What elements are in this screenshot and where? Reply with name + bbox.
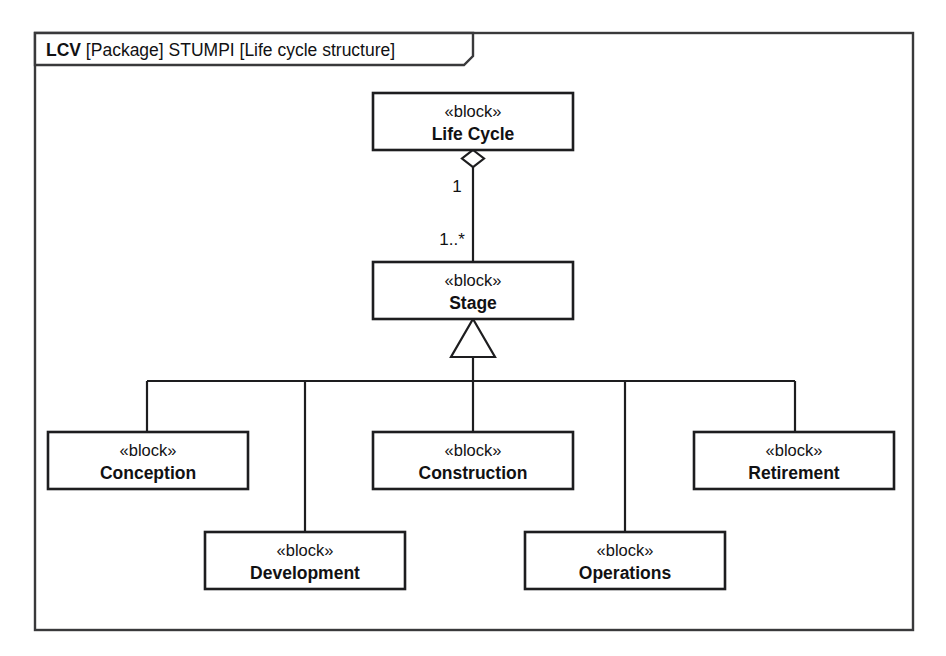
block-stage-name: Stage xyxy=(449,293,497,313)
block-stage-stereotype: «block» xyxy=(445,271,502,289)
block-operations[interactable]: «block» Operations xyxy=(525,532,725,589)
diagram-canvas: LCV [Package] STUMPI [Life cycle structu… xyxy=(0,0,946,656)
block-conception-name: Conception xyxy=(100,463,196,483)
block-life-cycle-stereotype: «block» xyxy=(445,102,502,120)
block-retirement-stereotype: «block» xyxy=(766,441,823,459)
block-retirement[interactable]: «block» Retirement xyxy=(694,432,894,489)
block-retirement-name: Retirement xyxy=(748,463,840,483)
block-construction-stereotype: «block» xyxy=(445,441,502,459)
block-life-cycle-name: Life Cycle xyxy=(432,124,515,144)
diagram-header-label: LCV [Package] STUMPI [Life cycle structu… xyxy=(46,40,395,60)
block-construction[interactable]: «block» Construction xyxy=(373,432,573,489)
block-conception-stereotype: «block» xyxy=(120,441,177,459)
block-development-stereotype: «block» xyxy=(277,541,334,559)
block-conception[interactable]: «block» Conception xyxy=(48,432,248,489)
aggregation-diamond-icon xyxy=(462,150,484,167)
multiplicity-source-label: 1 xyxy=(452,177,461,196)
block-development-name: Development xyxy=(250,563,360,583)
sysml-diagram-root: LCV [Package] STUMPI [Life cycle structu… xyxy=(0,0,946,656)
generalization-triangle-icon xyxy=(451,319,495,357)
block-development[interactable]: «block» Development xyxy=(205,532,405,589)
multiplicity-target-label: 1..* xyxy=(439,230,465,249)
block-stage[interactable]: «block» Stage xyxy=(373,262,573,319)
block-construction-name: Construction xyxy=(419,463,528,483)
diagram-header-label-rest: [Package] STUMPI [Life cycle structure] xyxy=(81,40,395,60)
block-operations-stereotype: «block» xyxy=(597,541,654,559)
block-life-cycle[interactable]: «block» Life Cycle xyxy=(373,93,573,150)
block-operations-name: Operations xyxy=(579,563,672,583)
diagram-header-label-bold: LCV xyxy=(46,40,81,60)
